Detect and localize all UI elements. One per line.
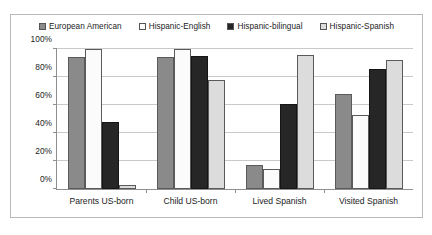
bar [68,57,85,189]
legend-item-european-american: European American [39,22,122,31]
chart-figure: European American Hispanic-English Hispa… [10,14,423,218]
legend-item-hispanic-english: Hispanic-English [139,22,211,31]
bar [369,69,386,189]
bar [335,94,352,189]
bar-group: Lived Spanish [235,49,324,189]
bar-group: Child US-born [146,49,235,189]
bar [280,104,297,189]
legend-label-hispanic-english: Hispanic-English [149,22,211,31]
y-axis-tick-label: 80% [35,62,52,72]
bar [85,49,102,189]
bar [119,185,136,189]
bar [174,49,191,189]
legend-swatch-hispanic-english [139,23,146,30]
bar-groups: Parents US-bornChild US-bornLived Spanis… [57,49,413,189]
bar [297,55,314,189]
y-axis-tick-label: 100% [31,34,52,44]
y-axis-tick-label: 20% [35,146,52,156]
legend-label-european-american: European American [49,22,122,31]
y-axis-tick-label: 60% [35,90,52,100]
x-axis-tick-mark [324,189,325,193]
x-axis-tick-mark [146,189,147,193]
bar [102,122,119,189]
bar [157,57,174,189]
bar [386,60,403,189]
x-axis-category-label: Parents US-born [69,196,133,206]
x-axis-category-label: Child US-born [164,196,218,206]
y-axis-tick-label: 40% [35,118,52,128]
y-axis-tick-label: 0% [40,174,52,184]
bar-group: Parents US-born [57,49,146,189]
bar [246,165,263,189]
bar-group: Visited Spanish [324,49,413,189]
chart-legend: European American Hispanic-English Hispa… [11,22,422,31]
x-axis-category-label: Visited Spanish [339,196,398,206]
legend-swatch-european-american [39,23,46,30]
bar [208,80,225,189]
legend-item-hispanic-bilingual: Hispanic-bilingual [227,22,302,31]
bar [191,56,208,189]
bar [263,169,280,189]
legend-item-hispanic-spanish: Hispanic-Spanish [320,22,395,31]
bar [352,115,369,189]
legend-label-hispanic-spanish: Hispanic-Spanish [330,22,395,31]
x-axis-category-label: Lived Spanish [253,196,307,206]
legend-swatch-hispanic-bilingual [227,23,234,30]
x-axis-tick-mark [235,189,236,193]
plot-area: 0%20%40%60%80%100% Parents US-bornChild … [56,49,413,190]
legend-swatch-hispanic-spanish [320,23,327,30]
legend-label-hispanic-bilingual: Hispanic-bilingual [237,22,302,31]
